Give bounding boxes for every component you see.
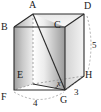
vertex-label-D: D (84, 1, 91, 11)
angle-label-x: x (57, 80, 61, 88)
vertex-label-G: G (60, 95, 67, 105)
measure-label-dh: 5 (92, 41, 97, 50)
vertex-label-F: F (1, 92, 7, 102)
vertex-label-B: B (1, 22, 8, 32)
measure-arc-dh (87, 16, 91, 75)
vertex-label-E: E (17, 70, 23, 80)
prism-drawing (0, 0, 101, 112)
vertex-label-A: A (29, 0, 36, 10)
measure-label-gh: 3 (74, 88, 79, 97)
measure-label-fg: 4 (33, 99, 38, 108)
measure-arc-fg (14, 92, 64, 100)
vertex-label-H: H (85, 70, 92, 80)
geometry-figure: A B C D E F G H 4 3 5 x (0, 0, 101, 112)
vertex-label-C: C (54, 20, 61, 30)
